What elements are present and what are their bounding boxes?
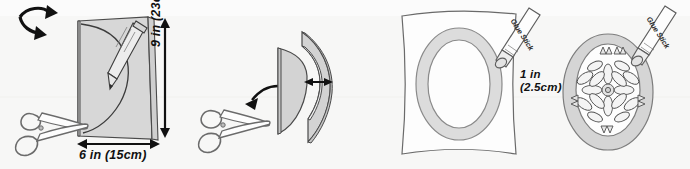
step-1-panel: 9 in (23cm) 6 in (15cm) [0, 0, 200, 169]
height-dimension-label: 9 in (23cm) [149, 0, 163, 47]
folded-card [78, 17, 158, 140]
width-dimension-label: 6 in (15cm) [79, 148, 147, 162]
open-arrow [245, 86, 278, 110]
step-4-panel: Glue Stick [548, 0, 690, 169]
oval-ring [416, 28, 502, 140]
glue-stick-icon: Glue Stick [630, 6, 676, 68]
scissors-icon [16, 113, 88, 155]
instruction-diagram: 9 in (23cm) 6 in (15cm) [0, 0, 690, 169]
cut-arc-piece [278, 48, 307, 134]
fold-arrow [20, 5, 58, 40]
step-3-panel: Glue Stick [388, 0, 553, 169]
step-2-panel: 1 in (2.5cm) [190, 0, 380, 169]
scissors-icon [199, 110, 270, 152]
